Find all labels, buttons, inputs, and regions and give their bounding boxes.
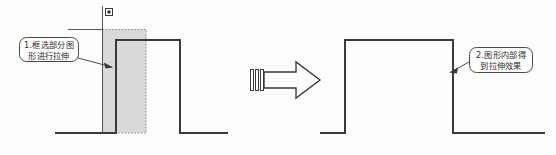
diagram-canvas: 1.框选部分图 形进行拉伸 2.图形内部得 到拉伸效果 <box>0 0 556 155</box>
selection-window-fill <box>103 30 147 134</box>
stretch-diagram-svg <box>0 0 556 155</box>
crosshair-pickbox-center-icon <box>108 11 111 14</box>
transition-block-arrow-icon <box>264 62 320 98</box>
arrow-tail-bar-2 <box>256 70 259 91</box>
callout-left-bubble[interactable] <box>20 38 79 62</box>
arrow-tail-bar-1 <box>251 70 254 91</box>
arrow-tail-bar-3 <box>261 70 264 91</box>
callout-right-bubble[interactable] <box>470 48 533 73</box>
